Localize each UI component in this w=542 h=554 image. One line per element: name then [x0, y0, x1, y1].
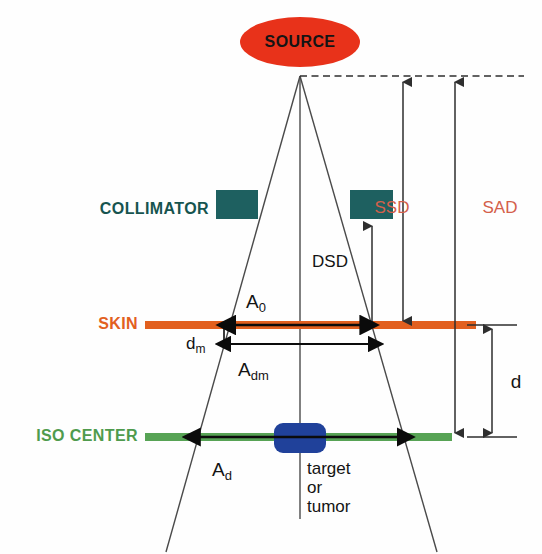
- dm-subscript: m: [195, 342, 205, 356]
- geometry-canvas: SOURCE COLLIMATOR SKIN ISO CENTER target…: [0, 0, 542, 554]
- target-label-line3: tumor: [307, 497, 351, 516]
- field-size-adm: Adm: [228, 344, 381, 383]
- target-label-line2: or: [307, 478, 322, 497]
- dsd-label: DSD: [312, 252, 348, 271]
- collimator-assembly: COLLIMATOR: [100, 190, 393, 219]
- source-marker: SOURCE: [240, 17, 360, 67]
- ad-label: Ad: [212, 459, 232, 483]
- ssd-measurement: SSD: [375, 82, 410, 321]
- collimator-label: COLLIMATOR: [100, 200, 209, 217]
- a0-subscript: 0: [259, 300, 266, 315]
- beam-divergence-lines: [166, 76, 437, 552]
- beam-edge-left: [166, 76, 300, 552]
- skin-label: SKIN: [98, 315, 138, 332]
- ssd-label: SSD: [375, 198, 410, 217]
- field-size-a0: A0: [232, 291, 376, 325]
- radiation-geometry-diagram: SOURCE COLLIMATOR SKIN ISO CENTER target…: [0, 0, 542, 554]
- target-label-line1: target: [307, 459, 351, 478]
- sad-label: SAD: [483, 198, 518, 217]
- adm-base: A: [238, 359, 251, 380]
- collimator-block-left: [216, 190, 258, 219]
- dmax-measurement: dm: [186, 328, 224, 356]
- sad-measurement: SAD: [455, 82, 517, 433]
- dm-base: d: [186, 334, 195, 353]
- depth-measurement: d: [467, 325, 521, 437]
- depth-label: d: [511, 371, 522, 392]
- dm-label: dm: [186, 334, 205, 356]
- adm-subscript: dm: [251, 368, 269, 383]
- ad-subscript: d: [225, 468, 232, 483]
- iso-center-label: ISO CENTER: [36, 427, 138, 444]
- a0-base: A: [246, 291, 259, 312]
- iso-center-plane: ISO CENTER: [36, 427, 452, 444]
- a0-label: A0: [246, 291, 266, 315]
- dsd-measurement: DSD: [312, 226, 372, 325]
- source-label: SOURCE: [265, 33, 336, 50]
- adm-label: Adm: [238, 359, 269, 383]
- ad-base: A: [212, 459, 225, 480]
